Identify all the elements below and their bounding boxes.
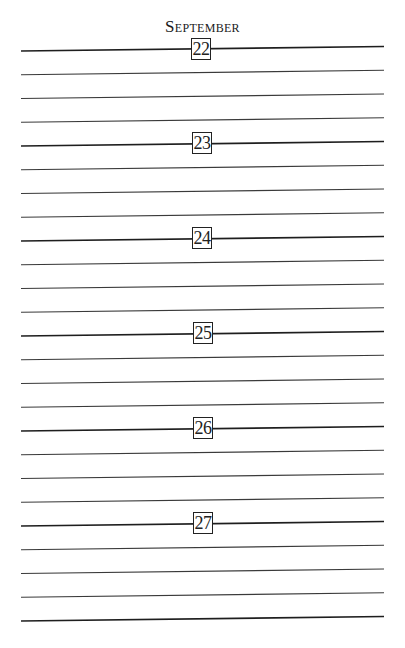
day-number: 24 <box>194 228 211 248</box>
ruled-line <box>21 474 384 479</box>
ruled-line <box>21 593 384 598</box>
day-number: 25 <box>195 323 212 343</box>
day-box-22: 22 <box>191 38 211 60</box>
day-box-25: 25 <box>193 322 213 344</box>
ruled-line <box>21 403 384 408</box>
ruled-line <box>21 379 384 384</box>
day-box-23: 23 <box>192 132 212 154</box>
day-number: 26 <box>195 418 212 438</box>
ruled-line <box>21 450 384 455</box>
ruled-line <box>21 498 384 503</box>
ruled-line <box>21 545 384 550</box>
ruled-line <box>21 165 384 170</box>
day-divider-line <box>21 617 384 622</box>
ruled-line <box>21 260 384 265</box>
day-box-24: 24 <box>192 227 212 249</box>
ruled-line <box>21 569 384 574</box>
ruled-line <box>21 284 384 289</box>
ruled-line <box>21 213 384 218</box>
day-number: 27 <box>195 513 212 533</box>
ruled-line <box>21 94 384 99</box>
day-box-26: 26 <box>193 417 213 439</box>
ruled-line <box>21 355 384 360</box>
ruled-line <box>21 70 384 75</box>
ruled-line <box>21 118 384 123</box>
ruled-line <box>21 189 384 194</box>
ruled-line <box>21 308 384 313</box>
day-number: 22 <box>193 39 210 59</box>
day-box-27: 27 <box>193 512 213 534</box>
day-number: 23 <box>194 133 211 153</box>
